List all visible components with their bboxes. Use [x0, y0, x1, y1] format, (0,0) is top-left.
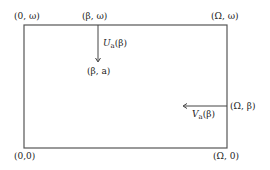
- label-right-point: (Ω, β): [230, 101, 255, 111]
- diagram-canvas: [0, 0, 270, 170]
- label-top-mid: (β, ω): [82, 11, 107, 21]
- label-top-right: (Ω, ω): [211, 11, 239, 21]
- label-U-operator: Ua(β): [103, 38, 127, 51]
- label-V-operator: Va(β): [192, 109, 215, 122]
- u-letter: U: [103, 38, 111, 48]
- label-top-left: (0, ω): [14, 11, 40, 21]
- label-bottom-left: (0,0): [14, 151, 35, 161]
- u-arg: (β): [115, 38, 127, 48]
- label-bottom-right: (Ω, 0): [213, 151, 239, 161]
- v-arg: (β): [203, 109, 215, 119]
- label-interior-point: (β, a): [87, 66, 110, 76]
